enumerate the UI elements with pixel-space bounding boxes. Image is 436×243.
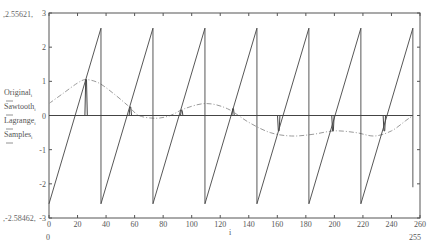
x-axis-ticks: 020406080100120140160180200220240260 <box>47 13 426 229</box>
x-min-label: 0 <box>46 233 50 242</box>
y-max-label: ,2.55621, <box>3 10 33 19</box>
y-tick-label: -2 <box>39 180 46 189</box>
y-tick-label: 0 <box>42 112 46 121</box>
y-tick-label: -1 <box>39 146 46 155</box>
legend-label-original: Originali <box>4 88 33 98</box>
x-tick-label: 20 <box>74 220 82 229</box>
x-tick-label: 0 <box>47 220 51 229</box>
legend-label-samples: Samplesi <box>4 130 33 140</box>
x-tick-label: 180 <box>300 220 312 229</box>
x-tick-label: 40 <box>102 220 110 229</box>
x-tick-label: 200 <box>328 220 340 229</box>
sample-spike <box>85 80 87 116</box>
x-tick-label: 100 <box>186 220 198 229</box>
series-layer <box>49 28 413 204</box>
x-tick-label: 220 <box>357 220 369 229</box>
sample-spike <box>129 107 131 116</box>
x-tick-label: 260 <box>414 220 426 229</box>
legend: OriginaliSawtoothiLagrangeiSamplesi <box>4 88 36 143</box>
series-original <box>49 80 413 136</box>
x-tick-label: 120 <box>214 220 226 229</box>
y-min-label: ,-2.58462, <box>3 214 36 223</box>
x-tick-label: 240 <box>385 220 397 229</box>
chart: 020406080100120140160180200220240260 -3-… <box>0 0 436 243</box>
x-tick-label: 60 <box>131 220 139 229</box>
x-tick-label: 160 <box>271 220 283 229</box>
x-max-label: 255 <box>409 233 421 242</box>
y-tick-label: 2 <box>42 43 46 52</box>
sample-spike <box>181 110 183 115</box>
legend-label-lagrange: Lagrangei <box>4 116 36 126</box>
y-tick-label: 1 <box>42 77 46 86</box>
y-tick-label: 3 <box>42 9 46 18</box>
x-tick-label: 140 <box>243 220 255 229</box>
x-tick-label: 80 <box>159 220 167 229</box>
x-axis-label: i <box>229 228 232 237</box>
legend-label-sawtooth: Sawtoothi <box>4 102 36 112</box>
y-tick-label: -3 <box>39 214 46 223</box>
